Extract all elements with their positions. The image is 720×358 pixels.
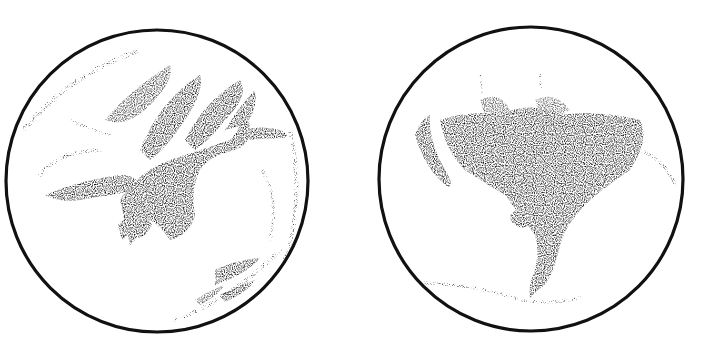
left-planet-disk xyxy=(6,30,308,332)
drawing-canvas xyxy=(0,0,720,358)
right-planet-disk xyxy=(379,27,683,331)
